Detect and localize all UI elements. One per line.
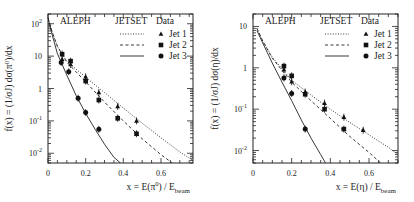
data-point-jet-3 (66, 69, 71, 74)
x-tick-label: 0.2 (81, 169, 91, 178)
data-point-jet-2 (289, 74, 294, 79)
data-point-jet-1 (115, 104, 120, 108)
curve-jet-2 (257, 28, 381, 163)
x-label-mid: ) / E (158, 182, 175, 193)
legend-marker-square (364, 43, 369, 48)
y-tick-exponent: -1 (37, 115, 42, 121)
data-point-jet-2 (322, 107, 327, 112)
y-tick-base: 10 (29, 117, 37, 126)
legend-marker-circle (159, 54, 164, 59)
x-tick-label: 0.6 (364, 169, 374, 178)
data-point-jet-3 (289, 91, 294, 96)
legend-label: Jet 2 (374, 40, 392, 50)
y-tick-label: 10-2 (234, 145, 247, 156)
legend-label: Jet 1 (374, 29, 392, 39)
legend-header-aleph: ALEPH (60, 16, 91, 26)
y-tick-label: 102 (31, 18, 42, 29)
x-tick-label: 0 (251, 169, 255, 178)
legend-marker-triangle (159, 31, 164, 35)
data-point-jet-2 (282, 64, 287, 69)
legend-header-data: Data (361, 16, 380, 26)
data-point-jet-2 (60, 52, 65, 57)
data-point-jet-3 (59, 60, 64, 65)
y-tick-base: 10 (234, 105, 242, 114)
x-label-main: x = E(π (127, 182, 156, 193)
curve-jet-3 (257, 31, 326, 164)
legend-label: Jet 3 (169, 51, 187, 61)
chart-panel-2: 00.20.40.610110-110-2f(x) = (1/σJ) dσ(η)… (210, 14, 398, 195)
legend-header-jetset: JETSET (115, 16, 147, 26)
legend-header-jetset: JETSET (320, 16, 352, 26)
legend-marker-triangle (364, 31, 369, 35)
chart-panel-1: 00.20.40.610210110-110-2f(x) = (1/σJ) dσ… (4, 14, 193, 195)
y-tick-base: 1 (38, 85, 42, 94)
y-tick-label: 10-1 (234, 103, 247, 114)
data-point-jet-3 (76, 96, 81, 101)
x-label-sub: beam (175, 187, 191, 195)
curve-jet-3 (48, 18, 121, 163)
legend-marker-circle (364, 54, 369, 59)
legend-label: Jet 2 (169, 40, 187, 50)
y-tick-exponent: -2 (242, 145, 247, 151)
y-tick-exponent: 2 (39, 18, 42, 24)
data-point-jet-1 (96, 90, 101, 94)
data-point-jet-3 (83, 110, 88, 115)
y-tick-label: 10-1 (29, 115, 42, 126)
x-tick-label: 0.4 (118, 169, 128, 178)
data-point-jet-2 (68, 59, 73, 64)
legend-header-aleph: ALEPH (265, 16, 296, 26)
data-point-jet-2 (97, 98, 102, 103)
y-tick-base: 10 (239, 22, 247, 31)
y-tick-exponent: -2 (37, 147, 42, 153)
y-tick-label: 1 (38, 85, 42, 94)
x-axis-label: x = E(η) / Ebeam (336, 182, 397, 195)
data-point-jet-2 (303, 92, 308, 97)
data-point-jet-3 (303, 127, 308, 132)
y-axis-label: f(x) = (1/σJ) dσ(π⁰)/dx (4, 45, 15, 131)
x-label-mid: ) / E (364, 182, 381, 193)
y-tick-label: 10-2 (29, 147, 42, 158)
y-tick-exponent: -1 (242, 103, 247, 109)
y-axis-label: f(x) = (1/σJ) dσ(η)/dx (210, 47, 221, 130)
x-axis-label: x = E(π0) / Ebeam (127, 180, 191, 195)
data-point-jet-1 (322, 101, 327, 105)
data-point-jet-3 (96, 127, 101, 132)
y-tick-base: 10 (234, 147, 242, 156)
x-tick-label: 0.4 (325, 169, 335, 178)
legend-marker-square (159, 43, 164, 48)
legend-label: Jet 1 (169, 29, 187, 39)
y-tick-base: 1 (243, 64, 247, 73)
y-tick-label: 10 (239, 22, 247, 31)
x-tick-label: 0.2 (287, 169, 297, 178)
data-point-jet-2 (134, 131, 139, 136)
y-tick-label: 10 (34, 52, 42, 61)
data-point-jet-2 (342, 127, 347, 132)
x-tick-label: 0 (46, 169, 50, 178)
x-tick-label: 0.6 (156, 169, 166, 178)
figure-canvas: 00.20.40.610210110-110-2f(x) = (1/σJ) dσ… (0, 0, 414, 202)
data-point-jet-2 (83, 79, 88, 84)
y-tick-label: 1 (243, 64, 247, 73)
data-point-jet-1 (134, 118, 139, 122)
y-tick-base: 10 (29, 149, 37, 158)
data-point-jet-2 (115, 116, 120, 121)
legend-label: Jet 3 (374, 51, 392, 61)
x-label-sub: beam (381, 187, 397, 195)
data-point-jet-3 (281, 75, 286, 80)
y-tick-base: 10 (31, 20, 39, 29)
curve-jet-2 (48, 18, 172, 163)
legend-header-data: Data (156, 16, 175, 26)
y-tick-base: 10 (34, 52, 42, 61)
x-label-main: x = E(η (336, 182, 365, 193)
